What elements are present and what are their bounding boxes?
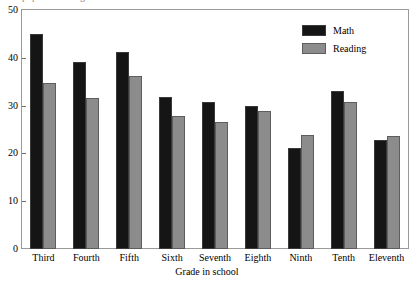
- bar-math-fourth: [73, 62, 86, 249]
- legend-label: Reading: [333, 42, 366, 56]
- bar-math-tenth: [331, 91, 344, 249]
- bar-reading-eleventh: [387, 136, 400, 249]
- bar-reading-fourth: [86, 98, 99, 249]
- bar-group: [202, 10, 228, 249]
- bar-math-sixth: [159, 97, 172, 249]
- bar-group: [30, 10, 56, 249]
- bar-math-fifth: [116, 52, 129, 249]
- bar-reading-tenth: [344, 102, 357, 249]
- y-axis-tick-label: 50: [0, 4, 21, 16]
- x-axis-tick-label: Eighth: [245, 252, 272, 264]
- bar-reading-sixth: [172, 116, 185, 249]
- bar-math-seventh: [202, 102, 215, 249]
- bar-group: [73, 10, 99, 249]
- bar-chart: pupils in each grade 01020304050 ThirdFo…: [0, 0, 414, 283]
- bar-group: [245, 10, 271, 249]
- x-axis-tick-label: Third: [32, 252, 54, 264]
- y-axis-tick-label: 10: [0, 195, 21, 207]
- legend: MathReading: [302, 24, 397, 60]
- legend-item-reading: Reading: [302, 42, 397, 57]
- bar-reading-ninth: [301, 135, 314, 249]
- x-axis-tick-label: Ninth: [289, 252, 312, 264]
- bar-math-eleventh: [374, 140, 387, 249]
- x-axis-tick-label: Sixth: [162, 252, 183, 264]
- y-axis-tick-label: 30: [0, 100, 21, 112]
- bar-reading-fifth: [129, 76, 142, 249]
- bar-reading-eighth: [258, 111, 271, 249]
- bar-math-eighth: [245, 106, 258, 249]
- clipped-caption: pupils in each grade: [22, 0, 102, 3]
- y-axis-tick-label: 20: [0, 147, 21, 159]
- x-axis-tick-label: Tenth: [332, 252, 355, 264]
- legend-item-math: Math: [302, 24, 397, 39]
- x-axis-tick-label: Fourth: [73, 252, 100, 264]
- bar-reading-seventh: [215, 122, 228, 249]
- x-axis-title: Grade in school: [0, 266, 414, 278]
- x-axis-tick-label: Seventh: [199, 252, 231, 264]
- bar-math-third: [30, 34, 43, 249]
- x-axis-tick-label: Fifth: [119, 252, 138, 264]
- y-axis-tick-label: 40: [0, 52, 21, 64]
- legend-swatch-math: [302, 25, 326, 36]
- x-axis-tick-label: Eleventh: [369, 252, 405, 264]
- bar-math-ninth: [288, 148, 301, 249]
- bar-reading-third: [43, 83, 56, 249]
- bar-group: [159, 10, 185, 249]
- bar-group: [116, 10, 142, 249]
- y-axis-tick-label: 0: [0, 243, 21, 255]
- legend-swatch-reading: [302, 43, 326, 54]
- legend-label: Math: [333, 24, 354, 38]
